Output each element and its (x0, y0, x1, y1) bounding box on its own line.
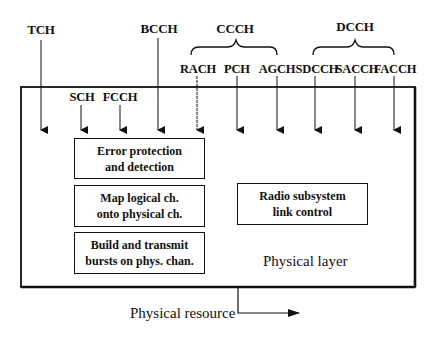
sdcch-label: SDCCH (296, 62, 339, 77)
map-logical-box: Map logical ch.onto physical ch. (74, 185, 205, 227)
build-box-line2: bursts on phys. chan. (85, 253, 193, 269)
build-box-line1: Build and transmit (85, 237, 193, 253)
dcch-brace (313, 40, 394, 55)
agch-label: AGCH (259, 62, 296, 77)
build-transmit-box: Build and transmitbursts on phys. chan. (74, 232, 205, 274)
dcch-label: DCCH (336, 19, 373, 35)
rach-label: RACH (180, 62, 216, 77)
physical-resource-arrow (238, 287, 299, 313)
sacch-label: SACCH (336, 62, 379, 77)
radio-box-line2: link control (259, 204, 345, 220)
radio-box-line1: Radio subsystem (259, 188, 345, 204)
physical-resource-label: Physical resource (130, 305, 235, 322)
diagram-lines (0, 0, 433, 338)
pch-label: PCH (224, 62, 250, 77)
physical-layer-label: Physical layer (263, 253, 348, 270)
facch-label: FACCH (374, 62, 417, 77)
tch-label: TCH (27, 22, 55, 38)
ccch-label: CCCH (216, 21, 253, 37)
map-box-line1: Map logical ch. (97, 190, 183, 206)
bcch-label: BCCH (141, 21, 178, 37)
ccch-brace (191, 40, 277, 55)
error-box-line1: Error protection (97, 143, 182, 159)
sch-label: SCH (69, 90, 94, 105)
error-protection-box: Error protectionand detection (74, 138, 205, 179)
radio-link-control-box: Radio subsystemlink control (237, 183, 368, 225)
error-box-line2: and detection (97, 159, 182, 175)
map-box-line2: onto physical ch. (97, 206, 183, 222)
fcch-label: FCCH (103, 90, 138, 105)
